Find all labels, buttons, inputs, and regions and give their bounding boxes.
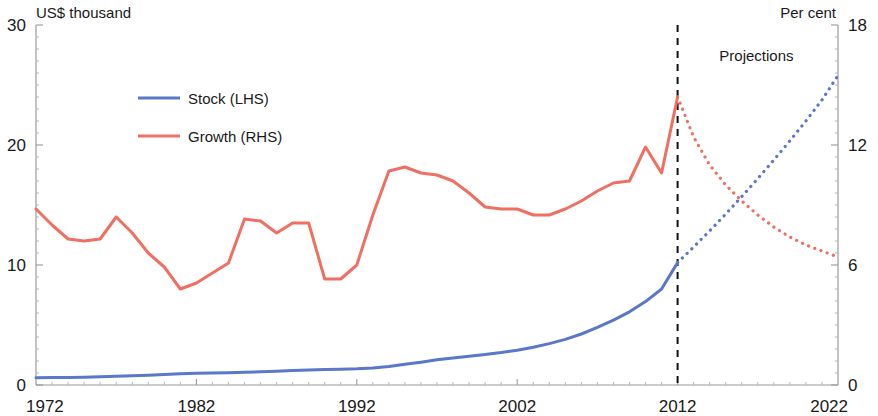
chart-legend: Stock (LHS)Growth (RHS) — [138, 90, 282, 145]
left-tick-label: 0 — [17, 376, 26, 395]
x-tick-label: 1992 — [338, 397, 376, 416]
chart-annotations: Projections — [719, 47, 793, 64]
series-stock-lhs — [36, 263, 678, 378]
x-tick-label: 2002 — [498, 397, 536, 416]
series-growth-rhs — [36, 97, 678, 289]
series-stock-lhs-projection — [678, 75, 838, 262]
right-tick-label: 0 — [848, 376, 857, 395]
x-tick-label: 1972 — [26, 397, 64, 416]
right-axis-tick-labels: 061218 — [848, 16, 867, 395]
x-axis-ticks — [52, 379, 822, 385]
data-series-group — [36, 75, 838, 377]
right-tick-label: 12 — [848, 136, 867, 155]
left-tick-label: 20 — [7, 136, 26, 155]
left-axis-tick-labels: 0102030 — [7, 16, 26, 395]
axes-group — [36, 25, 838, 385]
right-axis-title: Per cent — [780, 4, 837, 21]
x-tick-label: 2012 — [659, 397, 697, 416]
x-tick-label: 2022 — [810, 397, 848, 416]
projections-annotation: Projections — [719, 47, 793, 64]
left-axis-title: US$ thousand — [36, 4, 131, 21]
legend-label: Growth (RHS) — [188, 128, 282, 145]
line-chart: 0102030 061218 197219821992200220122022 … — [0, 0, 878, 416]
right-tick-label: 18 — [848, 16, 867, 35]
left-tick-label: 10 — [7, 256, 26, 275]
series-growth-rhs-projection — [678, 97, 838, 257]
left-axis-ticks — [36, 25, 43, 385]
right-tick-label: 6 — [848, 256, 857, 275]
chart-container: 0102030 061218 197219821992200220122022 … — [0, 0, 878, 416]
x-tick-label: 1982 — [177, 397, 215, 416]
legend-label: Stock (LHS) — [188, 90, 269, 107]
left-tick-label: 30 — [7, 16, 26, 35]
x-axis-tick-labels: 197219821992200220122022 — [26, 397, 848, 416]
